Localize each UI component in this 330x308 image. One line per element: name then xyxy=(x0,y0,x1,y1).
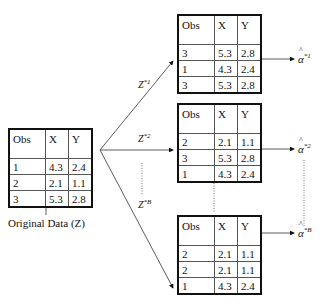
cell: 2 xyxy=(178,134,215,150)
cell: 2 xyxy=(178,246,215,262)
cell: 2.4 xyxy=(238,61,262,77)
table-row: 1 4.3 2.4 xyxy=(9,159,92,175)
edge-label-z2: Z*2 xyxy=(138,132,151,144)
cell: 1.1 xyxy=(69,175,93,191)
table-header-row: Obs X Y xyxy=(178,104,261,134)
bootstrap-sample-1-table: Obs X Y 3 5.3 2.8 1 4.3 2.4 3 5.3 2.8 xyxy=(177,14,262,94)
cell: 4.3 xyxy=(46,159,69,175)
table-row: 2 2.1 1.1 xyxy=(178,246,261,262)
table-header-row: Obs X Y xyxy=(178,216,261,246)
table-row: 3 5.3 2.8 xyxy=(178,150,261,166)
cell: 4.3 xyxy=(215,278,238,295)
table-row: 3 5.3 2.8 xyxy=(178,77,261,94)
bootstrap-sample-b-table: Obs X Y 2 2.1 1.1 2 2.1 1.1 1 4.3 2.4 xyxy=(177,215,262,295)
cell: 2 xyxy=(178,262,215,278)
estimate-alpha-1: ^α*1 xyxy=(298,52,311,65)
table-row: 1 4.3 2.4 xyxy=(178,166,261,183)
header-x: X xyxy=(215,104,238,134)
header-x: X xyxy=(46,129,69,159)
table-row: 1 4.3 2.4 xyxy=(178,278,261,295)
header-x: X xyxy=(215,15,238,45)
cell: 2.4 xyxy=(69,159,93,175)
table-row: 1 4.3 2.4 xyxy=(178,61,261,77)
cell: 1.1 xyxy=(238,246,262,262)
estimate-alpha-2: ^α*2 xyxy=(298,142,311,155)
header-y: Y xyxy=(238,104,262,134)
edge-label-z1: Z*1 xyxy=(138,78,151,90)
cell: 3 xyxy=(9,191,46,208)
cell: 2 xyxy=(9,175,46,191)
cell: 3 xyxy=(178,77,215,94)
arrow-to-sample-1 xyxy=(100,61,173,150)
cell: 1 xyxy=(178,278,215,295)
cell: 4.3 xyxy=(215,166,238,183)
table-row: 2 2.1 1.1 xyxy=(9,175,92,191)
cell: 2.8 xyxy=(69,191,93,208)
original-data-table: Obs X Y 1 4.3 2.4 2 2.1 1.1 3 5.3 2.8 xyxy=(8,128,93,208)
cell: 5.3 xyxy=(215,77,238,94)
arrow-to-sample-b xyxy=(100,150,173,288)
cell: 3 xyxy=(178,45,215,61)
cell: 2.1 xyxy=(215,134,238,150)
header-y: Y xyxy=(69,129,93,159)
header-x: X xyxy=(215,216,238,246)
table-row: 2 2.1 1.1 xyxy=(178,262,261,278)
original-data-caption: Original Data (Z) xyxy=(8,217,85,229)
cell: 1 xyxy=(9,159,46,175)
cell: 2.1 xyxy=(46,175,69,191)
edge-label-zb: Z*B xyxy=(138,198,151,210)
cell: 2.4 xyxy=(238,166,262,183)
cell: 2.1 xyxy=(215,246,238,262)
header-obs: Obs xyxy=(178,216,215,246)
table-header-row: Obs X Y xyxy=(9,129,92,159)
header-y: Y xyxy=(238,216,262,246)
cell: 2.8 xyxy=(238,77,262,94)
cell: 2.8 xyxy=(238,150,262,166)
header-obs: Obs xyxy=(178,15,215,45)
cell: 2.4 xyxy=(238,278,262,295)
cell: 1 xyxy=(178,61,215,77)
cell: 2.8 xyxy=(238,45,262,61)
table-row: 3 5.3 2.8 xyxy=(9,191,92,208)
header-obs: Obs xyxy=(178,104,215,134)
table-row: 2 2.1 1.1 xyxy=(178,134,261,150)
cell: 1.1 xyxy=(238,134,262,150)
cell: 3 xyxy=(178,150,215,166)
cell: 1 xyxy=(178,166,215,183)
cell: 4.3 xyxy=(215,61,238,77)
cell: 5.3 xyxy=(215,45,238,61)
header-y: Y xyxy=(238,15,262,45)
cell: 1.1 xyxy=(238,262,262,278)
table-row: 3 5.3 2.8 xyxy=(178,45,261,61)
header-obs: Obs xyxy=(9,129,46,159)
estimate-alpha-b: ^α*B xyxy=(298,226,312,239)
cell: 5.3 xyxy=(46,191,69,208)
bootstrap-sample-2-table: Obs X Y 2 2.1 1.1 3 5.3 2.8 1 4.3 2.4 xyxy=(177,103,262,183)
cell: 5.3 xyxy=(215,150,238,166)
cell: 2.1 xyxy=(215,262,238,278)
table-header-row: Obs X Y xyxy=(178,15,261,45)
